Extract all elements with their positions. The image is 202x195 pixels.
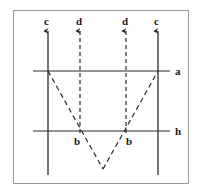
label-a: a	[175, 66, 181, 77]
v-shape-right-arm	[103, 71, 158, 169]
figure-canvas: c d d c a h b b	[0, 0, 202, 195]
diagram-svg	[0, 0, 202, 195]
v-shape-left-arm	[48, 71, 103, 169]
label-h: h	[175, 126, 181, 137]
label-b-left: b	[74, 136, 80, 147]
label-d-left: d	[76, 16, 82, 27]
label-c-right: c	[154, 16, 159, 27]
label-d-right: d	[122, 16, 128, 27]
label-c-left: c	[44, 16, 49, 27]
label-b-right: b	[126, 136, 132, 147]
